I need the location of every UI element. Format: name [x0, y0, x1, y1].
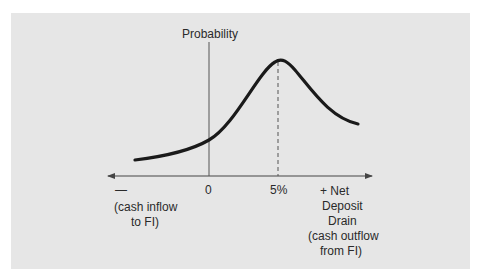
tick-peak: 5% [270, 183, 287, 198]
right-label-1: + Net [320, 184, 349, 199]
right-label-5: from FI) [320, 244, 362, 259]
right-label-3: Drain [328, 214, 357, 229]
left-end-symbol: — [115, 183, 127, 198]
left-end-label-1: (cash inflow [114, 200, 177, 215]
y-axis-label: Probability [182, 27, 238, 42]
distribution-diagram [0, 0, 477, 276]
left-end-label-2: to FI) [131, 215, 159, 230]
probability-curve [135, 60, 358, 160]
right-label-2: Deposit [322, 199, 363, 214]
right-label-4: (cash outflow [308, 229, 379, 244]
tick-zero: 0 [205, 183, 212, 198]
